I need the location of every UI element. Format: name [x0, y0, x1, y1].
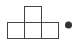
dot-icon: [65, 22, 72, 29]
bottom-left-block: [8, 23, 25, 39]
block-group: [8, 7, 59, 39]
bottom-right-block: [42, 23, 59, 39]
top-block: [25, 7, 42, 23]
tetromino-t-icon: [0, 0, 78, 45]
bottom-middle-block: [25, 23, 42, 39]
